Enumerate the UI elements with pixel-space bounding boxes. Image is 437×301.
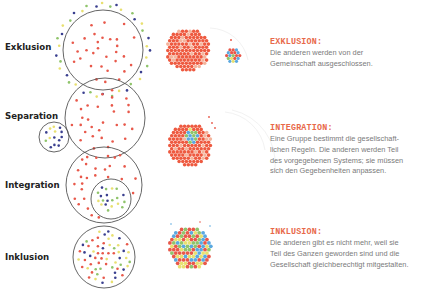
desc-line: lichen Regeln. Die anderen werden Teil: [270, 145, 435, 156]
desc-line: Die anderen gibt es nicht mehr, weil sie: [270, 238, 435, 249]
desc-integration-title: INTEGRATION:: [270, 123, 435, 134]
desc-line: Eine Gruppe bestimmt die gesellschaft-: [270, 134, 435, 145]
desc-exklusion: EXKLUSION: Die anderen werden von der Ge…: [270, 37, 435, 70]
separation-diagram: [39, 78, 145, 158]
desc-exklusion-title: EXKLUSION:: [270, 37, 435, 48]
inklusion-dot-cluster: [168, 221, 213, 268]
exklusion-dot-cluster: [166, 29, 241, 71]
desc-line: Die anderen werden von der: [270, 48, 435, 59]
desc-line: Gemeinschaft ausgeschlossen.: [270, 59, 435, 70]
inklusion-diagram: [73, 226, 135, 288]
desc-line: Teil des Ganzen geworden sind und die: [270, 249, 435, 260]
desc-inklusion-title: INKLUSION:: [270, 227, 435, 238]
desc-exklusion-body: Die anderen werden von der Gemeinschaft …: [270, 48, 435, 70]
exklusion-diagram: [55, 2, 151, 98]
integration-dot-cluster: [168, 116, 216, 166]
desc-inklusion: INKLUSION: Die anderen gibt es nicht meh…: [270, 227, 435, 270]
desc-integration-body: Eine Gruppe bestimmt die gesellschaft- l…: [270, 134, 435, 177]
desc-line: des vorgegebenen Systems; sie müssen: [270, 156, 435, 167]
faint-arc-decoration: [210, 28, 275, 170]
desc-line: Gesellschaft gleichberechtigt mitgestalt…: [270, 260, 435, 271]
desc-line: sich den Gegebenheiten anpassen.: [270, 166, 435, 177]
desc-inklusion-body: Die anderen gibt es nicht mehr, weil sie…: [270, 238, 435, 270]
desc-integration: INTEGRATION: Eine Gruppe bestimmt die ge…: [270, 123, 435, 177]
